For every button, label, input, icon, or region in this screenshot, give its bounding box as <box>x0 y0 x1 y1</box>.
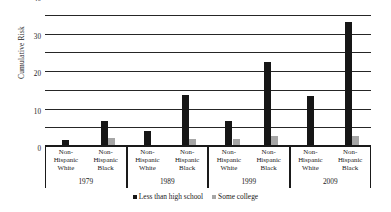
y-tick-label: 0 <box>37 149 41 150</box>
category-label: Non-HispanicBlack <box>86 148 126 173</box>
category-label-line: Hispanic <box>330 156 370 164</box>
bar <box>307 96 314 147</box>
category-label-line: Non- <box>167 148 207 156</box>
y-tick-label: 20 <box>34 74 41 75</box>
category-label: Non-HispanicWhite <box>209 148 249 173</box>
category-label-line: Hispanic <box>46 156 86 164</box>
bar-series-container <box>45 16 371 147</box>
category-group: Non-HispanicWhiteNon-HispanicBlack2009 <box>290 147 372 188</box>
category-label-line: Non- <box>86 148 126 156</box>
category-label-line: Non- <box>128 148 168 156</box>
year-label: 1999 <box>209 177 289 186</box>
category-label-line: Black <box>330 164 370 172</box>
category-label-line: Hispanic <box>128 156 168 164</box>
plot-area: 010203040506070 <box>45 16 371 147</box>
category-label-line: Hispanic <box>86 156 126 164</box>
bar <box>264 62 271 147</box>
bar-chart-figure: Cumulative Risk 010203040506070 Non-Hisp… <box>0 0 391 212</box>
legend-label: Less than high school <box>139 192 203 201</box>
category-label-line: Non- <box>249 148 289 156</box>
year-label: 1989 <box>128 177 208 186</box>
category-label-line: Hispanic <box>291 156 331 164</box>
y-axis-title: Cumulative Risk <box>17 8 26 98</box>
category-label-line: Non- <box>291 148 331 156</box>
category-label-line: Non- <box>46 148 86 156</box>
year-label: 2009 <box>291 177 371 186</box>
category-label-line: Black <box>167 164 207 172</box>
category-label-line: White <box>128 164 168 172</box>
legend-item-less-than-high-school: Less than high school <box>133 192 203 201</box>
legend-item-some-college: Some college <box>212 192 258 201</box>
year-label: 1979 <box>46 177 126 186</box>
bar <box>345 22 352 147</box>
category-label-line: White <box>291 164 331 172</box>
bar <box>225 121 232 147</box>
category-axis: Non-HispanicWhiteNon-HispanicBlack1979No… <box>45 147 371 188</box>
category-group-inner: Non-HispanicWhiteNon-HispanicBlack1979 <box>46 147 126 188</box>
category-group-inner: Non-HispanicWhiteNon-HispanicBlack1999 <box>209 147 289 188</box>
category-label-line: Hispanic <box>167 156 207 164</box>
category-group-inner: Non-HispanicWhiteNon-HispanicBlack2009 <box>291 147 371 188</box>
bar <box>182 95 189 147</box>
category-group-inner: Non-HispanicWhiteNon-HispanicBlack1989 <box>128 147 208 188</box>
category-label-line: Black <box>249 164 289 172</box>
category-group: Non-HispanicWhiteNon-HispanicBlack1999 <box>208 147 290 188</box>
category-label: Non-HispanicWhite <box>291 148 331 173</box>
legend-swatch-icon <box>133 195 137 199</box>
category-group: Non-HispanicWhiteNon-HispanicBlack1979 <box>45 147 127 188</box>
legend-label: Some college <box>218 192 258 201</box>
y-tick-label: 10 <box>34 112 41 113</box>
category-group: Non-HispanicWhiteNon-HispanicBlack1989 <box>127 147 209 188</box>
category-label-line: White <box>209 164 249 172</box>
bar <box>101 121 108 147</box>
category-label: Non-HispanicBlack <box>330 148 370 173</box>
category-label: Non-HispanicWhite <box>46 148 86 173</box>
category-label-line: White <box>46 164 86 172</box>
category-label-line: Black <box>86 164 126 172</box>
category-label-line: Hispanic <box>249 156 289 164</box>
category-label-line: Non- <box>330 148 370 156</box>
y-tick-label: 30 <box>34 37 41 38</box>
category-label: Non-HispanicWhite <box>128 148 168 173</box>
category-label-line: Hispanic <box>209 156 249 164</box>
legend-swatch-icon <box>212 195 216 199</box>
category-label-line: Non- <box>209 148 249 156</box>
legend: Less than high school Some college <box>0 192 391 201</box>
category-label: Non-HispanicBlack <box>249 148 289 173</box>
category-label: Non-HispanicBlack <box>167 148 207 173</box>
